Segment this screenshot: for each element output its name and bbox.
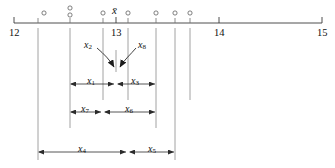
sample-mean-symbol: x̄ [112,5,117,16]
measure-label-x6: x6 [125,104,133,115]
guide-lines [38,28,190,160]
measure-label-x5: x5 [148,144,156,155]
data-point-markers [42,6,192,17]
data-point [101,11,105,15]
data-point [42,11,46,15]
callout-label-x2: x2 [84,40,92,51]
axis-group [14,17,322,23]
data-point [68,13,72,17]
axis-tick-label-15: 15 [317,28,328,39]
measure-label-x3: x3 [131,76,139,87]
axis-tick-label-13: 13 [111,28,122,39]
callout-label-x8: x8 [138,40,146,51]
axis-tick-label-14: 14 [214,28,225,39]
measure-x3-sub: 3 [135,79,139,87]
number-line-figure: 12 13 14 15 x̄ x2 x8 x1 x3 x7 x6 x4 x5 [0,0,335,168]
figure-canvas [0,0,335,168]
data-point [173,11,177,15]
data-point [188,11,192,15]
measure-label-x1: x1 [87,76,95,87]
data-point [68,6,72,10]
callout-x2-sub: 2 [88,43,92,51]
measure-x7-sub: 7 [85,107,89,115]
measure-label-x4: x4 [78,144,86,155]
callout-x8-sub: 8 [142,43,146,51]
axis-tick-label-12: 12 [9,28,20,39]
data-point [154,11,158,15]
measure-x1-sub: 1 [91,79,95,87]
data-point [126,11,130,15]
measure-x6-sub: 6 [129,107,133,115]
measure-x5-sub: 5 [152,147,156,155]
measure-x4-sub: 4 [82,147,86,155]
measure-label-x7: x7 [81,104,89,115]
